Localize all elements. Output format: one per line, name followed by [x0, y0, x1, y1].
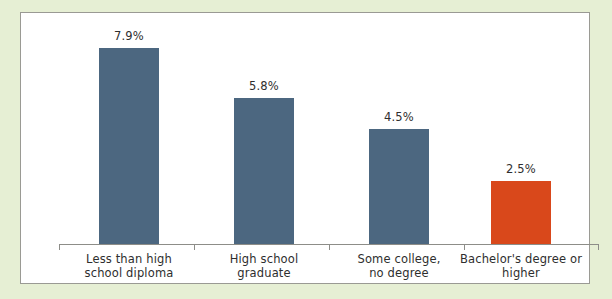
chart-panel: 7.9% 5.8% 4.5% 2.5%: [20, 12, 590, 284]
bar-group-4: 2.5%: [451, 13, 591, 245]
axis-tick-4: [598, 244, 599, 250]
bar-value-label-2: 5.8%: [249, 79, 279, 93]
bar-3[interactable]: [369, 129, 429, 245]
plot-area: 7.9% 5.8% 4.5% 2.5%: [21, 13, 591, 245]
axis-tick-3: [464, 244, 465, 250]
axis-tick-2: [329, 244, 330, 250]
axis-tick-0: [59, 244, 60, 250]
bar-chart-figure: 7.9% 5.8% 4.5% 2.5%: [0, 0, 612, 299]
category-label-3-line-1: Some college,: [329, 252, 469, 266]
bar-4[interactable]: [491, 181, 551, 245]
category-label-1: Less than high school diploma: [59, 252, 199, 280]
category-label-1-line-2: school diploma: [59, 266, 199, 280]
bar-1[interactable]: [99, 48, 159, 245]
bar-value-label-3: 4.5%: [384, 110, 414, 124]
bar-group-1: 7.9%: [59, 13, 199, 245]
category-label-1-line-1: Less than high: [59, 252, 199, 266]
category-label-4-line-2: higher: [451, 266, 591, 280]
bar-value-label-4: 2.5%: [506, 162, 536, 176]
category-axis-labels: Less than high school diploma High schoo…: [21, 252, 591, 292]
bar-group-3: 4.5%: [329, 13, 469, 245]
category-label-3: Some college, no degree: [329, 252, 469, 280]
category-label-2-line-1: High school: [194, 252, 334, 266]
category-label-2: High school graduate: [194, 252, 334, 280]
category-label-4-line-1: Bachelor's degree or: [451, 252, 591, 266]
bar-group-2: 5.8%: [194, 13, 334, 245]
bar-value-label-1: 7.9%: [114, 29, 144, 43]
bar-2[interactable]: [234, 98, 294, 245]
category-label-2-line-2: graduate: [194, 266, 334, 280]
category-label-4: Bachelor's degree or higher: [451, 252, 591, 280]
category-label-3-line-2: no degree: [329, 266, 469, 280]
axis-tick-1: [194, 244, 195, 250]
